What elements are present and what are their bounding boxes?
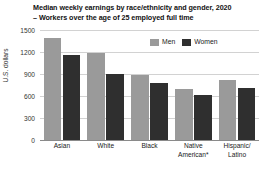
bar (106, 74, 124, 140)
bar (150, 83, 168, 140)
bar (194, 95, 212, 140)
plot-area (40, 30, 259, 140)
bar (63, 55, 81, 140)
x-axis-label-line: American* (171, 151, 215, 160)
x-axis-label-line: Black (128, 142, 172, 151)
legend-item-women: Women (182, 38, 217, 46)
x-axis-label-line: Hispanic/ (215, 142, 259, 151)
x-axis-label: Hispanic/Latino (215, 142, 259, 159)
legend-swatch-women-icon (182, 39, 191, 46)
chart-card: Median weekly earnings by race/ethnicity… (0, 0, 261, 174)
bar (87, 53, 105, 140)
x-axis-label-line: Latino (215, 151, 259, 160)
bar-group (44, 30, 81, 140)
bar (219, 80, 237, 140)
bar (44, 38, 62, 140)
x-axis-label: Black (128, 142, 172, 151)
y-tick-label-600: 600 (5, 93, 35, 100)
bar-group (175, 30, 212, 140)
x-axis-label: White (84, 142, 128, 151)
chart-legend: Men Women (150, 38, 218, 46)
x-axis-label-line: Native (171, 142, 215, 151)
title-block: Median weekly earnings by race/ethnicity… (33, 3, 259, 23)
legend-item-men: Men (150, 38, 175, 46)
bar-group (219, 30, 256, 140)
y-tick-label-1500: 1500 (5, 27, 35, 34)
gridline-0 (40, 140, 259, 141)
x-axis-label: Asian (40, 142, 84, 151)
y-tick-label-300: 300 (5, 115, 35, 122)
bar-group (87, 30, 124, 140)
y-tick-label-900: 900 (5, 71, 35, 78)
chart-subtitle: – Workers over the age of 25 employed fu… (33, 13, 259, 23)
y-axis-ticks: 030060090012001500 (5, 30, 35, 140)
bar (175, 89, 193, 140)
bar (131, 75, 149, 140)
x-axis-label-line: Asian (40, 142, 84, 151)
bar-group (131, 30, 168, 140)
legend-label-men: Men (162, 38, 175, 46)
y-tick-label-1200: 1200 (5, 49, 35, 56)
bars-layer (40, 30, 259, 140)
legend-label-women: Women (194, 38, 217, 46)
legend-swatch-men-icon (150, 39, 159, 46)
x-axis-labels: AsianWhiteBlackNativeAmerican*Hispanic/L… (40, 142, 259, 172)
y-tick-label-0: 0 (5, 137, 35, 144)
bar (238, 88, 256, 140)
x-axis-label-line: White (84, 142, 128, 151)
x-axis-label: NativeAmerican* (171, 142, 215, 159)
chart-title: Median weekly earnings by race/ethnicity… (33, 3, 259, 13)
